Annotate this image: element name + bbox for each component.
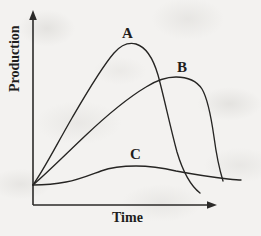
- arrow-up-icon: [29, 10, 37, 20]
- y-axis-title: Production: [8, 25, 22, 92]
- curve-c-path: [33, 166, 241, 185]
- curve-label-c: C: [130, 147, 141, 162]
- production-time-figure: A B C Production Time: [0, 0, 261, 236]
- arrow-right-icon: [207, 201, 217, 209]
- curve-label-a: A: [122, 26, 133, 41]
- x-axis-title: Time: [112, 211, 143, 225]
- curve-label-b: B: [177, 60, 187, 75]
- curve-b-path: [33, 77, 223, 185]
